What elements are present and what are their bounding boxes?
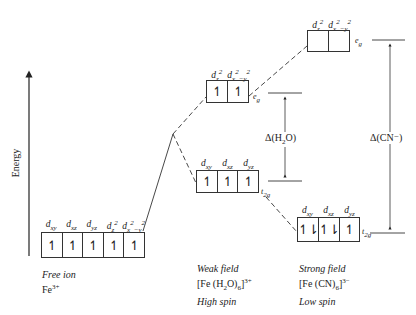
- orbital-cell: ↿: [207, 81, 228, 102]
- strong-eg-orbital-box: [307, 30, 350, 52]
- caption-line: Fe3+: [42, 281, 76, 296]
- delta-h2o-label: Δ(H2O): [265, 132, 296, 147]
- orbital-cell: ↿: [63, 233, 84, 257]
- strong-field-caption: Strong field [Fe (CN)6]3− Low spin: [299, 262, 350, 308]
- orbital-cell: ↿: [104, 233, 125, 257]
- energy-axis-label: Energy: [11, 149, 21, 178]
- orbital-label: dyz: [339, 205, 360, 218]
- strong-t2g-label: t2g: [362, 228, 371, 239]
- weak-t2g-label: t2g: [261, 188, 270, 199]
- orbital-cell: ↿⇂: [298, 218, 319, 241]
- caption-line: Weak field: [197, 262, 252, 275]
- orbital-cell: ↿: [83, 233, 104, 257]
- orbital-label: dxy: [297, 205, 318, 218]
- strong-t2g-orbital-box: ↿⇂ ↿⇂ ↿: [297, 217, 360, 242]
- weak-t2g-orbital-labels: dxy dxz dyz: [196, 158, 259, 171]
- caption-line: High spin: [197, 295, 252, 308]
- orbital-cell: ↿: [340, 218, 359, 241]
- weak-t2g-orbital-box: ↿ ↿ ↿: [196, 170, 259, 193]
- free-ion-caption: Free ion Fe3+: [42, 268, 76, 296]
- weak-eg-label: eg: [253, 93, 260, 104]
- orbital-label: dxz: [318, 205, 339, 218]
- caption-line: Strong field: [299, 262, 350, 275]
- orbital-cell: ↿: [228, 81, 248, 102]
- delta-cn-label: Δ(CN⁻): [370, 132, 402, 144]
- orbital-label: dxz: [217, 158, 238, 171]
- orbital-cell: ↿: [238, 171, 258, 192]
- free-ion-orbital-box: ↿ ↿ ↿ ↿ ↿: [41, 232, 145, 258]
- orbital-label: dxy: [196, 158, 217, 171]
- orbital-cell: ↿: [218, 171, 239, 192]
- orbital-cell: [329, 31, 349, 51]
- orbital-cell: ↿: [124, 233, 144, 257]
- strong-t2g-orbital-labels: dxy dxz dyz: [297, 205, 360, 218]
- weak-eg-orbital-box: ↿ ↿: [206, 80, 249, 103]
- caption-line: [Fe (CN)6]3−: [299, 275, 350, 295]
- weak-field-caption: Weak field [Fe (H2O)6]3+ High spin: [197, 262, 252, 308]
- orbital-cell: ↿: [197, 171, 218, 192]
- strong-eg-label: eg: [355, 37, 362, 48]
- orbital-cell: [308, 31, 329, 51]
- orbital-cell: ↿: [42, 233, 63, 257]
- orbital-label: dyz: [238, 158, 259, 171]
- caption-line: [Fe (H2O)6]3+: [197, 275, 252, 295]
- orbital-cell: ↿⇂: [319, 218, 340, 241]
- caption-line: Low spin: [299, 295, 350, 308]
- caption-line: Free ion: [42, 268, 76, 281]
